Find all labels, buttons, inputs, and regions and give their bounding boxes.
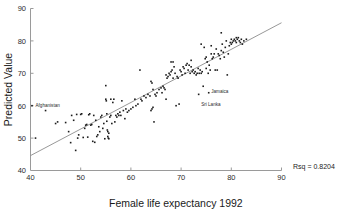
data-point bbox=[86, 124, 88, 126]
data-point bbox=[163, 87, 165, 89]
data-point bbox=[218, 55, 220, 57]
data-point bbox=[236, 37, 238, 39]
data-point bbox=[123, 110, 125, 112]
data-point bbox=[228, 45, 230, 47]
data-point bbox=[214, 69, 216, 71]
data-point bbox=[240, 42, 242, 44]
data-point bbox=[65, 122, 67, 124]
data-point bbox=[241, 38, 243, 40]
data-point bbox=[191, 71, 193, 73]
data-point bbox=[193, 73, 195, 75]
data-point bbox=[175, 105, 177, 107]
data-point bbox=[209, 69, 211, 71]
data-point bbox=[242, 43, 244, 45]
data-point bbox=[55, 123, 57, 125]
data-point bbox=[165, 74, 167, 76]
data-point bbox=[226, 74, 228, 76]
data-point bbox=[190, 66, 192, 68]
rsq-annotation: Rsq = 0.8204 bbox=[293, 163, 335, 171]
data-point bbox=[98, 126, 100, 128]
data-point bbox=[207, 73, 209, 75]
data-point bbox=[182, 66, 184, 68]
data-point bbox=[227, 53, 229, 55]
data-point bbox=[110, 115, 112, 117]
data-point bbox=[189, 73, 191, 75]
data-point bbox=[137, 103, 139, 105]
data-point bbox=[225, 40, 227, 42]
data-point bbox=[134, 98, 136, 100]
data-point bbox=[114, 121, 116, 123]
data-point bbox=[135, 105, 137, 107]
data-point bbox=[57, 121, 59, 123]
data-point bbox=[206, 61, 208, 63]
data-point bbox=[215, 48, 217, 50]
y-tick-label: 50 bbox=[18, 134, 26, 143]
data-point bbox=[178, 103, 180, 105]
data-point bbox=[239, 40, 241, 42]
data-point bbox=[176, 76, 178, 78]
data-point bbox=[45, 110, 47, 112]
data-point bbox=[166, 77, 168, 79]
data-point bbox=[150, 110, 152, 112]
data-point bbox=[195, 74, 197, 76]
data-point bbox=[145, 97, 147, 99]
data-point-label: Jamaica bbox=[211, 89, 229, 94]
data-point bbox=[112, 102, 114, 104]
data-point bbox=[158, 89, 160, 91]
data-point bbox=[118, 115, 120, 117]
data-point bbox=[198, 73, 200, 75]
data-point bbox=[108, 138, 110, 140]
data-point bbox=[229, 42, 231, 44]
data-point bbox=[219, 58, 221, 60]
data-point bbox=[130, 108, 132, 110]
data-point bbox=[139, 69, 141, 71]
data-point bbox=[208, 64, 210, 66]
x-tick-label: 80 bbox=[227, 173, 235, 182]
data-point bbox=[110, 98, 112, 100]
data-point bbox=[94, 142, 96, 144]
data-point bbox=[96, 136, 98, 138]
data-point bbox=[210, 45, 212, 47]
chart-canvas: 405060708090405060708090AfghanistanJamai… bbox=[0, 0, 346, 215]
data-point bbox=[95, 119, 97, 121]
data-point bbox=[81, 113, 83, 115]
data-point bbox=[232, 42, 234, 44]
data-point bbox=[238, 37, 240, 39]
data-point bbox=[156, 92, 158, 94]
data-point bbox=[173, 66, 175, 68]
x-tick-label: 40 bbox=[26, 173, 34, 182]
data-point bbox=[73, 119, 75, 121]
data-point bbox=[220, 32, 222, 34]
data-point bbox=[104, 138, 106, 140]
data-point bbox=[167, 76, 169, 78]
regression-line bbox=[31, 23, 282, 156]
data-point bbox=[180, 71, 182, 73]
data-point bbox=[77, 137, 79, 139]
data-point bbox=[70, 142, 72, 144]
data-point bbox=[97, 134, 99, 136]
data-point bbox=[115, 115, 117, 117]
data-point bbox=[120, 115, 122, 117]
data-point bbox=[111, 123, 113, 125]
data-point bbox=[147, 94, 149, 96]
y-tick-label: 80 bbox=[18, 37, 26, 46]
data-point bbox=[234, 38, 236, 40]
data-point bbox=[170, 71, 172, 73]
data-point bbox=[217, 53, 219, 55]
data-point bbox=[150, 81, 152, 83]
data-point bbox=[202, 85, 204, 87]
data-point bbox=[179, 69, 181, 71]
data-point bbox=[203, 47, 205, 49]
data-point bbox=[91, 124, 93, 126]
data-point bbox=[164, 89, 166, 91]
data-point bbox=[165, 98, 167, 100]
x-tick-label: 50 bbox=[77, 173, 85, 182]
data-point bbox=[170, 61, 172, 63]
data-point bbox=[184, 73, 186, 75]
data-point bbox=[208, 92, 210, 94]
data-point bbox=[194, 71, 196, 73]
data-point bbox=[205, 68, 207, 70]
data-point bbox=[183, 68, 185, 70]
y-tick-label: 40 bbox=[18, 166, 26, 175]
x-tick-label: 60 bbox=[127, 173, 135, 182]
